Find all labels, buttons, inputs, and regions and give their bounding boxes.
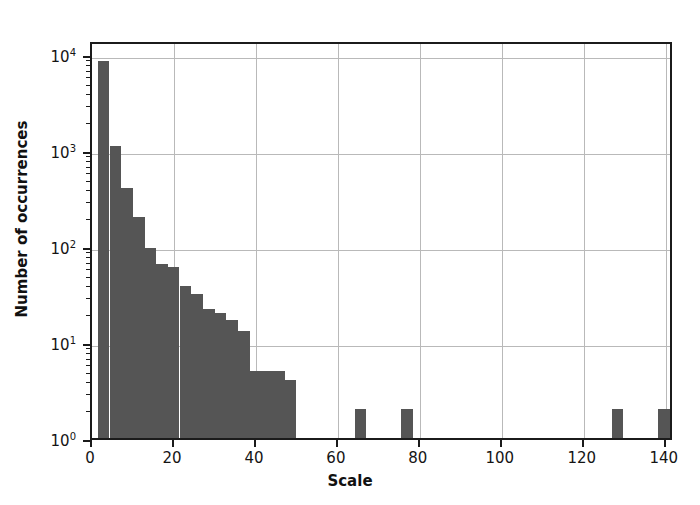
x-tick-major xyxy=(582,440,584,447)
histogram-bar xyxy=(180,286,192,438)
gridline-x-120 xyxy=(584,44,585,438)
gridline-x-140 xyxy=(666,44,667,438)
x-axis-title: Scale xyxy=(0,472,700,490)
histogram-bar xyxy=(658,409,670,438)
histogram-bar xyxy=(215,313,227,438)
histogram-bar xyxy=(144,248,156,438)
histogram-bar xyxy=(203,309,215,438)
histogram-bar xyxy=(250,371,262,438)
x-tick-label: 80 xyxy=(408,449,427,467)
x-tick-major xyxy=(336,440,338,447)
y-tick-label: 101 xyxy=(51,335,76,354)
x-tick-label: 120 xyxy=(568,449,597,467)
histogram-bar xyxy=(355,409,367,438)
histogram-bar xyxy=(133,217,145,438)
histogram-figure: 100101102103104 020406080100120140 Scale… xyxy=(0,0,700,505)
x-tick-label: 20 xyxy=(162,449,181,467)
gridline-x-100 xyxy=(502,44,503,438)
x-tick-label: 40 xyxy=(244,449,263,467)
y-tick-label: 103 xyxy=(51,143,76,162)
y-tick-major xyxy=(83,440,90,442)
histogram-bar xyxy=(121,188,133,438)
x-tick-major xyxy=(664,440,666,447)
gridline-x-60 xyxy=(338,44,339,438)
x-tick-major xyxy=(90,440,92,447)
histogram-bar xyxy=(612,409,624,438)
y-axis-title: Number of occurrences xyxy=(13,39,31,399)
x-axis-tick-labels: 020406080100120140 xyxy=(90,449,672,473)
x-tick-label: 0 xyxy=(85,449,95,467)
plot-area xyxy=(90,42,672,440)
x-tick-major xyxy=(254,440,256,447)
x-tick-major xyxy=(500,440,502,447)
x-tick-major xyxy=(172,440,174,447)
histogram-bar xyxy=(261,371,273,438)
histogram-bar xyxy=(156,264,168,438)
histogram-bar xyxy=(168,267,180,438)
gridline-x-80 xyxy=(420,44,421,438)
histogram-bar xyxy=(401,409,413,438)
x-tick-major xyxy=(418,440,420,447)
x-tick-label: 100 xyxy=(486,449,515,467)
histogram-bar xyxy=(98,61,110,438)
y-tick-label: 104 xyxy=(51,47,76,66)
histogram-bar xyxy=(226,320,238,438)
histogram-bar xyxy=(285,380,297,438)
x-tick-label: 60 xyxy=(326,449,345,467)
x-tick-label: 140 xyxy=(649,449,678,467)
y-tick-label: 100 xyxy=(51,431,76,450)
histogram-bar xyxy=(238,331,250,438)
histogram-bar xyxy=(273,371,285,438)
histogram-bar xyxy=(110,146,122,438)
y-tick-label: 102 xyxy=(51,239,76,258)
histogram-bar xyxy=(191,294,203,438)
